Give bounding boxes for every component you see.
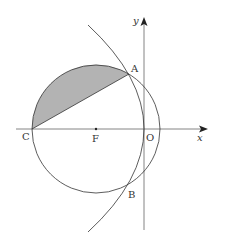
label-x-axis: x	[197, 132, 203, 143]
label-y-axis: y	[132, 15, 139, 26]
geometry-diagram: A B C F O x y	[0, 0, 225, 250]
label-C: C	[22, 131, 30, 142]
label-A: A	[130, 63, 139, 74]
point-F	[95, 128, 97, 130]
label-F: F	[92, 133, 99, 144]
label-B: B	[128, 189, 135, 200]
shaded-segment	[32, 65, 129, 129]
label-O: O	[146, 132, 154, 143]
